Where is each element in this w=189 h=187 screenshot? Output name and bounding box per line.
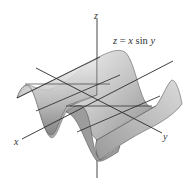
y-axis-label: y: [162, 131, 168, 142]
z-axis-label: z: [93, 10, 98, 21]
surface-plot-figure: z x y z = x sin y: [0, 0, 189, 187]
equation-label: z = x sin y: [112, 35, 155, 46]
surface-plot-svg: z x y z = x sin y: [0, 0, 189, 187]
x-axis-label: x: [13, 136, 19, 147]
